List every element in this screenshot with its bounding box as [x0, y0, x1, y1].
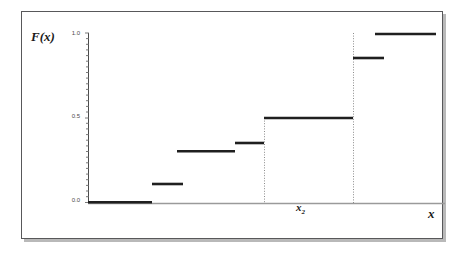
y-tick-label-0-5: 0.5: [60, 113, 80, 119]
x2-point-label: x2: [296, 201, 305, 216]
plot-area: [0, 0, 466, 254]
y-tick-label-1: 1.0: [60, 30, 80, 36]
y-axis-label: F(x): [31, 29, 55, 45]
y-tick-label-0: 0.0: [60, 197, 80, 203]
figure-root: 1.0 0.5 0.0 F(x) x x2: [0, 0, 466, 254]
x-axis-label: x: [428, 206, 435, 222]
x2-point-subscript: 2: [302, 208, 306, 216]
step-segments: [88, 34, 436, 202]
